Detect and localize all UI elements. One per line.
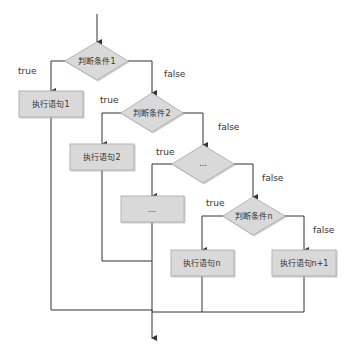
decision-d1: 判断条件1 xyxy=(65,42,128,80)
process-label: ... xyxy=(148,205,156,214)
flowchart-canvas: 判断条件1 判断条件2 ... 判断条件n 执行语句1 执行语句2 ... 执行… xyxy=(0,0,352,353)
edge-label-d2-false: false xyxy=(218,122,240,132)
process-p3: ... xyxy=(121,196,184,222)
process-label: 执行语句n xyxy=(183,258,220,268)
process-label: 执行语句1 xyxy=(32,99,69,109)
edge-label-d1-true: true xyxy=(18,66,37,76)
decision-label: 判断条件2 xyxy=(133,108,170,118)
edge-d3-true xyxy=(152,164,172,196)
edge-dn-false xyxy=(285,216,304,250)
flowchart: 判断条件1 判断条件2 ... 判断条件n 执行语句1 执行语句2 ... 执行… xyxy=(0,0,352,353)
edge-label-d3-true: true xyxy=(156,147,175,157)
edge-label-d1-false: false xyxy=(164,69,186,79)
edge-label-d2-true: true xyxy=(100,95,119,105)
decision-label: 判断条件n xyxy=(235,211,272,221)
decision-d2: 判断条件2 xyxy=(121,93,183,132)
edge-d1-false xyxy=(128,61,152,93)
decision-dn: 判断条件n xyxy=(223,197,285,235)
process-p2: 执行语句2 xyxy=(70,144,134,170)
process-label: 执行语句2 xyxy=(83,152,120,162)
edge-d1-true xyxy=(51,61,65,91)
edge-pn1-merge xyxy=(152,276,304,312)
edge-label-dn-false: false xyxy=(313,225,335,235)
edge-d2-true xyxy=(102,113,121,144)
decision-label: 判断条件1 xyxy=(78,56,115,66)
process-pn: 执行语句n xyxy=(171,250,234,276)
process-pn1: 执行语句n+1 xyxy=(272,250,336,276)
edge-label-dn-true: true xyxy=(206,198,225,208)
decision-d3: ... xyxy=(172,145,234,183)
process-label: 执行语句n+1 xyxy=(280,258,329,268)
edge-d2-false xyxy=(183,113,203,145)
edge-dn-true xyxy=(202,216,223,250)
edge-d3-false xyxy=(234,164,253,197)
decision-label: ... xyxy=(199,159,207,168)
process-p1: 执行语句1 xyxy=(19,91,83,117)
edge-label-d3-false: false xyxy=(262,173,284,183)
